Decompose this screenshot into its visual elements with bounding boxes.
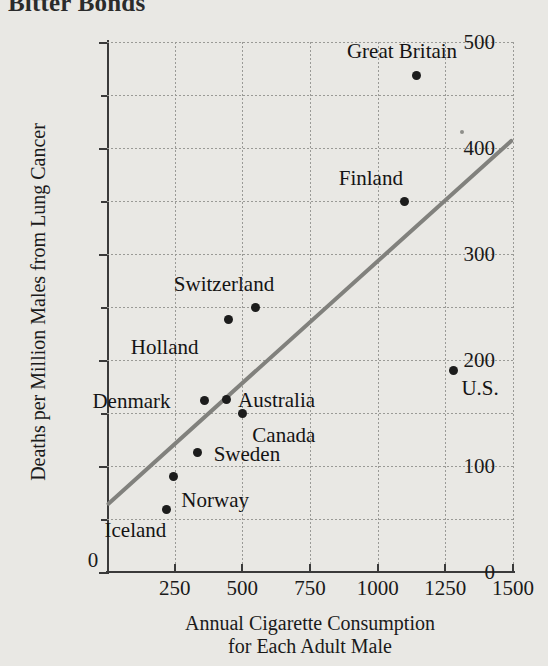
gridline-horizontal (107, 148, 513, 149)
gridline-horizontal (107, 254, 513, 255)
x-axis-tick (512, 564, 514, 572)
gridline-horizontal (107, 201, 513, 202)
y-axis-tick (99, 254, 107, 256)
gridline-horizontal (107, 95, 513, 96)
x-axis-tick (377, 564, 379, 572)
x-axis-tick (444, 564, 446, 572)
y-axis-minor-tick (101, 201, 107, 203)
x-axis-tick (309, 564, 311, 572)
x-axis-tick (241, 564, 243, 572)
y-axis-tick-label: 500 (464, 32, 496, 53)
data-point[interactable] (251, 303, 260, 312)
gridline-vertical (513, 42, 514, 572)
data-point[interactable] (400, 197, 409, 206)
data-point[interactable] (193, 448, 202, 457)
gridline-horizontal (107, 519, 513, 520)
data-point-label: Great Britain (347, 41, 457, 62)
y-axis-tick (99, 572, 107, 574)
data-point-label: Sweden (214, 444, 281, 465)
gridline-horizontal (107, 413, 513, 414)
x-axis-tick-label: 0 (88, 550, 99, 571)
data-point-label: Norway (181, 490, 249, 511)
y-axis-tick (99, 148, 107, 150)
data-point[interactable] (224, 315, 233, 324)
gridline-horizontal (107, 307, 513, 308)
x-axis-tick-label: 250 (159, 578, 191, 599)
data-point-label: Switzerland (174, 274, 274, 295)
data-point[interactable] (449, 366, 458, 375)
data-point[interactable] (169, 472, 178, 481)
data-point-label: Australia (238, 390, 315, 411)
y-axis-tick-label: 200 (464, 350, 496, 371)
data-point-label: Denmark (92, 391, 170, 412)
plot-area: 01002003004005000250500750100012501500Ic… (107, 42, 513, 572)
y-axis-tick (99, 42, 107, 44)
data-point-label: Finland (339, 168, 403, 189)
data-point[interactable] (162, 505, 171, 514)
gridline-horizontal (107, 360, 513, 361)
y-axis-tick-label: 300 (464, 244, 496, 265)
data-point-label: Iceland (105, 520, 167, 541)
x-axis-title: Annual Cigarette Consumption for Each Ad… (107, 612, 513, 658)
y-axis-title: Deaths per Million Males from Lung Cance… (28, 52, 48, 552)
x-axis-tick-label: 1500 (492, 578, 534, 599)
y-axis-minor-tick (101, 95, 107, 97)
data-point-label: Holland (131, 337, 199, 358)
chart-title: Bitter Bonds (8, 0, 145, 17)
y-axis-minor-tick (101, 307, 107, 309)
data-point-label: U.S. (461, 378, 498, 399)
y-axis-tick-label: 100 (464, 456, 496, 477)
data-point-label: Canada (252, 425, 315, 446)
data-point[interactable] (200, 396, 209, 405)
x-axis-tick-label: 500 (227, 578, 259, 599)
chart-figure: Bitter Bonds 010020030040050002505007501… (0, 0, 548, 666)
x-axis-tick-label: 750 (294, 578, 326, 599)
x-axis-title-line2: for Each Adult Male (107, 635, 513, 658)
data-point[interactable] (222, 395, 231, 404)
x-axis-tick-label: 1250 (424, 578, 466, 599)
y-axis-tick (99, 466, 107, 468)
gridline-horizontal (107, 466, 513, 467)
x-axis-title-line1: Annual Cigarette Consumption (107, 612, 513, 635)
data-point[interactable] (412, 71, 421, 80)
x-axis-tick (174, 564, 176, 572)
y-axis-minor-tick (101, 413, 107, 415)
x-axis-tick-label: 1000 (357, 578, 399, 599)
y-axis-tick (99, 360, 107, 362)
stray-speck (460, 130, 464, 134)
